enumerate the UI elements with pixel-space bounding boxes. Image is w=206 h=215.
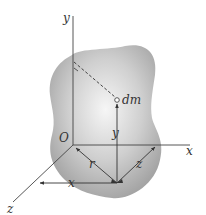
x-axis-label: x xyxy=(186,144,193,158)
mass-element-point xyxy=(115,98,120,103)
x-dimension-label: x xyxy=(68,176,75,190)
z-dimension-label: z xyxy=(135,157,143,171)
y-dimension-label: y xyxy=(111,126,119,140)
y-axis-label: y xyxy=(62,11,70,25)
mass-element-diagram: y x z O dm y r z x xyxy=(0,0,206,215)
mass-element-label: dm xyxy=(122,93,141,107)
z-axis-label: z xyxy=(6,202,14,215)
rigid-body-shape xyxy=(50,45,162,198)
origin-label: O xyxy=(59,131,69,145)
